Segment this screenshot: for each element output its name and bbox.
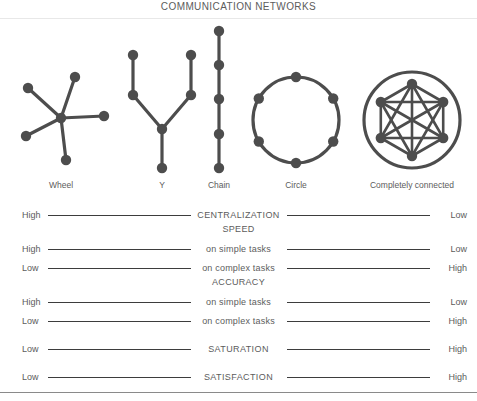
network-y <box>128 50 196 173</box>
network-label-complete: Completely connected <box>357 180 467 190</box>
scale-line-right-centralization <box>287 215 430 216</box>
anchor-right-centralization: Low <box>427 210 467 220</box>
anchor-right-accuracy-simple: Low <box>427 297 467 307</box>
network-label-wheel: Wheel <box>31 180 91 190</box>
scale-row-centralization: High CENTRALIZATION Low <box>0 205 477 224</box>
anchor-right-speed-complex: High <box>427 263 467 273</box>
network-label-chain: Chain <box>189 180 249 190</box>
scale-line-right-saturation <box>287 349 430 350</box>
network-circle <box>253 72 339 168</box>
network-completely-connected <box>364 72 460 168</box>
scale-line-left-speed-simple <box>48 249 191 250</box>
network-chain <box>214 26 224 173</box>
network-diagrams <box>0 22 477 177</box>
scale-spacer-1 <box>0 330 477 339</box>
figure-bottom-rule <box>0 392 477 393</box>
scale-line-right-accuracy-simple <box>287 302 430 303</box>
scale-row-accuracy-complex: Low on complex tasks High <box>0 311 477 330</box>
scale-line-left-satisfaction <box>48 377 191 378</box>
anchor-right-satisfaction: High <box>427 372 467 382</box>
network-wheel <box>21 72 109 165</box>
anchor-right-saturation: High <box>427 344 467 354</box>
scale-line-left-accuracy-simple <box>48 302 191 303</box>
figure-canvas: COMMUNICATION NETWORKS <box>0 0 477 401</box>
scale-line-left-accuracy-complex <box>48 321 191 322</box>
scale-line-right-speed-complex <box>287 268 430 269</box>
scale-line-left-centralization <box>48 215 191 216</box>
figure-top-rule <box>0 18 477 19</box>
network-label-y: Y <box>132 180 192 190</box>
scale-row-speed-complex: Low on complex tasks High <box>0 258 477 277</box>
anchor-right-accuracy-complex: High <box>427 316 467 326</box>
scale-row-accuracy-simple: High on simple tasks Low <box>0 292 477 311</box>
scale-line-left-saturation <box>48 349 191 350</box>
scale-row-speed-simple: High on simple tasks Low <box>0 239 477 258</box>
scale-spacer-2 <box>0 358 477 367</box>
scale-line-right-accuracy-complex <box>287 321 430 322</box>
anchor-right-speed-simple: Low <box>427 244 467 254</box>
scale-header-speed: SPEED <box>0 224 477 239</box>
figure-title: COMMUNICATION NETWORKS <box>0 1 477 12</box>
scale-line-right-speed-simple <box>287 249 430 250</box>
scale-line-left-speed-complex <box>48 268 191 269</box>
scale-row-satisfaction: Low SATISFACTION High <box>0 367 477 386</box>
network-label-row: Wheel Y Chain Circle Completely connecte… <box>0 180 477 196</box>
scale-line-right-satisfaction <box>287 377 430 378</box>
comparison-scales: High CENTRALIZATION Low SPEED High on si… <box>0 205 477 386</box>
scale-row-saturation: Low SATURATION High <box>0 339 477 358</box>
network-label-circle: Circle <box>266 180 326 190</box>
scale-header-accuracy: ACCURACY <box>0 277 477 292</box>
